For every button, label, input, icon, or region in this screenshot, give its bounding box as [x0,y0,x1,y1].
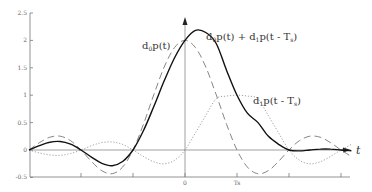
y-tick-label: -0.5 [15,173,27,180]
y-tick-label: 1 [23,91,27,98]
y-tick-label: 2.5 [17,9,27,16]
x-tick-label: 0 [183,179,187,186]
center-axis-arrow-icon [183,17,188,25]
y-tick-label: 0.5 [17,119,27,126]
series-dashed-line [29,40,351,173]
y-tick-label: 0 [23,146,27,153]
y-tick-label: 2 [23,36,27,43]
y-tick-label: 1.5 [17,64,27,71]
annotation-d0: d0p(t) [142,40,171,52]
x-ticks: 0Ts [81,173,341,186]
annotation-d1: d1p(t - Ts) [253,95,301,107]
x-tick-label: Ts [234,179,241,186]
curves [29,30,351,174]
annotation-sum: d0p(t) + d1p(t - Ts) [206,31,297,43]
chart-svg: 2.521.510.50-0.5 0Ts t d0p(t) d0p(t) + d… [0,0,372,192]
pulse-superposition-chart: 2.521.510.50-0.5 0Ts t d0p(t) d0p(t) + d… [0,0,372,192]
t-axis-label: t [356,144,361,157]
series-solid-line [29,30,351,166]
series-dotted-line [29,95,351,164]
